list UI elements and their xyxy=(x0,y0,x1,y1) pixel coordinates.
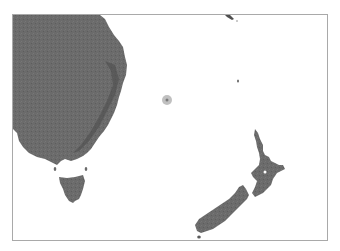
new-zealand-north-island xyxy=(251,129,285,197)
flinders-island xyxy=(85,167,88,171)
marker-dot xyxy=(166,99,169,102)
new-zealand-south-island xyxy=(195,185,249,233)
lake-taupo xyxy=(264,171,267,174)
king-island xyxy=(54,167,57,171)
australia-landmass xyxy=(13,15,127,165)
new-caledonia-tip xyxy=(225,15,234,20)
map-frame[interactable] xyxy=(12,14,328,241)
map-canvas[interactable] xyxy=(13,15,328,241)
norfolk-island xyxy=(237,80,239,83)
loyalty-island xyxy=(236,20,238,22)
stewart-island xyxy=(197,236,201,239)
tasmania-landmass xyxy=(59,175,85,203)
location-marker[interactable] xyxy=(162,95,172,105)
